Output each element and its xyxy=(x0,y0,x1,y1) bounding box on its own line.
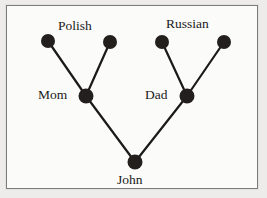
graph-edge-paternal_grandparent_2-to-dad xyxy=(187,42,224,96)
graph-node-maternal_grandparent_2 xyxy=(103,35,117,49)
graph-edge-maternal_grandparent_2-to-mom xyxy=(86,42,110,96)
node-label-dad: Dad xyxy=(145,88,168,102)
group-label-polish: Polish xyxy=(58,19,92,33)
node-label-john: John xyxy=(117,173,143,187)
graph-node-dad xyxy=(180,89,195,104)
graph-node-mom xyxy=(79,89,94,104)
group-label-russian: Russian xyxy=(166,17,209,31)
edge-layer xyxy=(48,41,224,162)
graph-node-john xyxy=(128,155,143,170)
figure-root: Polish Russian Mom Dad John xyxy=(0,0,267,198)
graph-node-paternal_grandparent_2 xyxy=(217,35,231,49)
graph-edge-dad-to-john xyxy=(135,96,187,162)
node-layer xyxy=(41,34,231,170)
node-label-mom: Mom xyxy=(38,88,67,102)
graph-edge-mom-to-john xyxy=(86,96,135,162)
graph-node-paternal_grandparent_1 xyxy=(155,35,169,49)
graph-node-maternal_grandparent_1 xyxy=(41,34,55,48)
